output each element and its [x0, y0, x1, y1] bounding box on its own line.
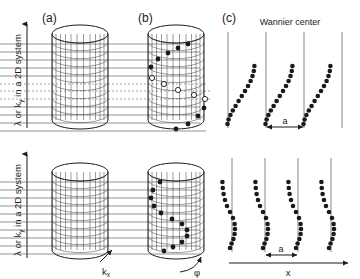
- y-axis-label-bottom-tail: in a 2D system: [12, 164, 23, 230]
- phi-annotation: φ: [180, 257, 201, 278]
- panel-a-bottom-mesh: [52, 172, 108, 253]
- panel-c-bottom-branch-1: [220, 180, 237, 251]
- figure-root: λ or ky in a 2D system λ or ky in a 2D s…: [0, 0, 360, 279]
- y-axis-label-top: λ or ky in a 2D system: [12, 34, 25, 126]
- panel-b-bottom-wannier-filled: [149, 180, 190, 254]
- physics-figure: λ or ky in a 2D system λ or ky in a 2D s…: [0, 0, 360, 279]
- panel-c-bottom-branch-4: [319, 180, 336, 251]
- panel-c-top-lattice-annotation: a: [267, 116, 303, 127]
- y-axis-label-top-main: λ or k: [12, 103, 23, 126]
- kx-label-sub: x: [107, 271, 111, 278]
- kx-label: kx: [102, 266, 111, 278]
- panel-label-a: (a): [42, 11, 57, 25]
- panel-label-c: (c): [222, 11, 236, 25]
- panel-c-bottom: a x: [220, 158, 348, 278]
- panel-label-b: (b): [138, 11, 153, 25]
- panel-c-top-branch-2: [263, 64, 295, 127]
- panel-c-bottom-branch-2: [253, 180, 270, 251]
- panel-c-bottom-branch-3: [286, 180, 303, 251]
- panel-b-top-wannier-filled: [149, 42, 207, 132]
- panel-c-bottom-a-label: a: [278, 244, 283, 254]
- panel-c-top-branch-1: [225, 64, 256, 127]
- phi-label: φ: [194, 267, 200, 278]
- x-axis-label: x: [286, 267, 291, 278]
- panel-a-bottom-cylinder: [52, 163, 108, 259]
- panel-a-top-cylinder: [52, 25, 108, 129]
- panel-c-top-branch-3: [301, 64, 333, 127]
- wannier-center-label: Wannier center: [260, 17, 321, 27]
- connector-lines-top: [0, 44, 206, 131]
- panel-c-bottom-lattice-annotation: a: [266, 244, 297, 255]
- y-axis-label-bottom-main: λ or k: [12, 233, 23, 256]
- panel-b-top-cylinder: [148, 25, 208, 131]
- panel-c-top-a-label: a: [282, 116, 287, 126]
- y-axis-label-bottom: λ or ky in a 2D system: [12, 164, 25, 256]
- panel-c-top: a: [225, 32, 342, 128]
- panel-a-top-mesh: [52, 34, 108, 123]
- panel-b-bottom-cylinder: [148, 163, 204, 259]
- panel-b-bottom-mesh: [148, 172, 204, 253]
- panel-c-bottom-x-axis: x: [229, 263, 348, 278]
